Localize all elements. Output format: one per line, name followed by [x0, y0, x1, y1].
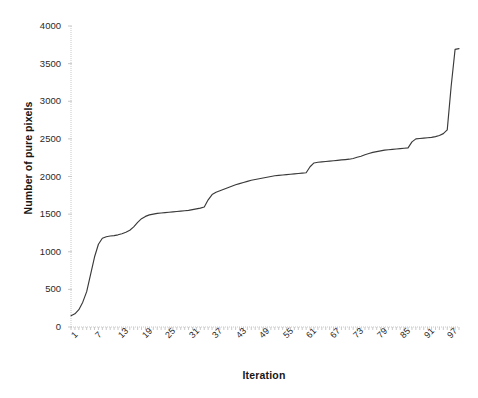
data-series-line [71, 49, 459, 316]
y-tick-label: 500 [17, 284, 61, 294]
y-tick-label: 4000 [17, 21, 61, 31]
y-tickmarks [68, 26, 72, 327]
y-tick-label: 1500 [17, 209, 61, 219]
pure-pixels-line-chart: Number of pure pixels Iteration 05001000… [0, 0, 478, 398]
y-tick-label: 3000 [17, 96, 61, 106]
y-tick-label: 1000 [17, 247, 61, 257]
y-tick-label: 2000 [17, 172, 61, 182]
y-tick-label: 3500 [17, 59, 61, 69]
y-tick-label: 0 [17, 322, 61, 332]
y-tick-label: 2500 [17, 134, 61, 144]
